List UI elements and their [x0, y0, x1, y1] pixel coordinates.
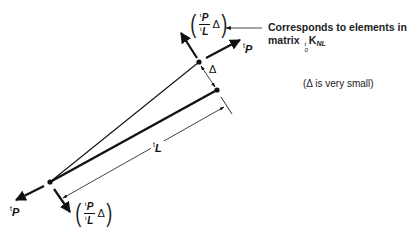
axial-force-top-label: tP [243, 42, 252, 55]
node-right [214, 87, 219, 92]
annotation-line-2: matrix t0KNL [268, 34, 407, 53]
axial-force-bottom-label: tP [10, 205, 19, 218]
fraction: tP tL [84, 201, 95, 226]
axial-force-top-arrow [206, 40, 240, 58]
small-delta-note: (Δ is very small) [303, 78, 374, 89]
fraction: tP tL [199, 12, 210, 37]
annotation-text: Corresponds to elements in matrix t0KNL [268, 21, 407, 53]
annotation-line-1: Corresponds to elements in [268, 21, 407, 34]
transverse-force-top-label: ( tP tL Δ ) [189, 11, 229, 37]
paren-open: ( [190, 11, 196, 37]
paren-close: ) [106, 200, 112, 226]
transverse-force-bottom-arrow [54, 189, 70, 212]
node-left [47, 179, 52, 184]
node-top [196, 59, 201, 64]
length-extension-tick [221, 97, 232, 114]
axial-force-bottom-arrow [16, 186, 44, 200]
paren-close: ) [221, 11, 227, 37]
length-label: tL [151, 141, 164, 154]
original-element [50, 90, 217, 182]
transverse-force-bottom-label: ( tP tL Δ ) [74, 200, 114, 226]
rotated-element [50, 62, 199, 182]
delta-label: Δ [209, 63, 216, 75]
paren-open: ( [75, 200, 81, 226]
matrix-symbol: t0KNL [302, 34, 325, 46]
